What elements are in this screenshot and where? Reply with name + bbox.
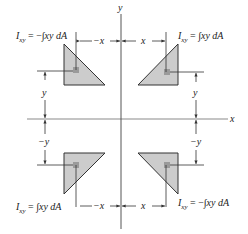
quadrant-bottom-left: −x −y Ixy = ∫xy dA: [15, 120, 120, 215]
y-dim-label-top-left: y: [41, 87, 47, 98]
x-dim-label-top-right: x: [140, 35, 146, 46]
quadrant-top-right: x y Ixy = ∫xy dA: [122, 30, 224, 118]
triangle-area-top-right: [138, 44, 178, 85]
x-axis-label: x: [229, 113, 235, 124]
equation-top-right: Ixy = ∫xy dA: [177, 30, 224, 44]
equation-bottom-right: Ixy = −∫xy dA: [177, 197, 230, 211]
x-dim-label-bottom-left: −x: [93, 200, 105, 211]
triangle-area-bottom-left: [64, 153, 105, 194]
y-axis-label: y: [117, 2, 123, 13]
product-of-inertia-diagram: x y −x y Ixy = −∫xy dA x y Ixy: [0, 0, 248, 234]
y-dim-label-bottom-left: −y: [38, 136, 50, 147]
triangle-area-top-left: [64, 44, 105, 85]
quadrant-top-left: −x y Ixy = −∫xy dA: [15, 30, 120, 118]
y-dim-label-bottom-right: −y: [190, 136, 202, 147]
triangle-area-bottom-right: [138, 153, 178, 194]
area-element-bottom-right: [164, 162, 170, 168]
y-dim-label-top-right: y: [192, 87, 198, 98]
area-element-top-right: [164, 69, 170, 75]
equation-bottom-left: Ixy = ∫xy dA: [15, 201, 62, 215]
quadrant-bottom-right: x −y Ixy = −∫xy dA: [122, 120, 230, 211]
equation-top-left: Ixy = −∫xy dA: [15, 30, 68, 44]
x-dim-label-top-left: −x: [93, 35, 105, 46]
x-dim-label-bottom-right: x: [140, 200, 146, 211]
